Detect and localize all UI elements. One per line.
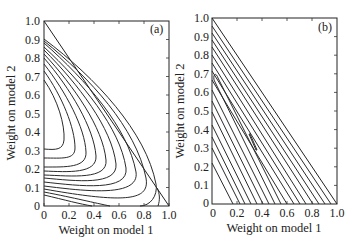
svg-text:0.6: 0.6 bbox=[25, 88, 40, 102]
svg-text:0: 0 bbox=[203, 196, 209, 210]
svg-text:1.0: 1.0 bbox=[162, 208, 177, 222]
svg-text:1.0: 1.0 bbox=[25, 14, 40, 28]
svg-text:0.1: 0.1 bbox=[25, 181, 40, 195]
panel-b-x-axis-label: Weight on model 1 bbox=[226, 221, 321, 235]
panel-a-contours bbox=[44, 39, 159, 206]
panel-a-y-tick-labels: 0 0.1 0.2 0.3 0.4 0.5 0.6 0.7 0.8 0.9 1.… bbox=[25, 14, 40, 213]
panel-a-label: (a) bbox=[150, 22, 163, 36]
svg-text:0.2: 0.2 bbox=[25, 162, 40, 176]
svg-text:0.8: 0.8 bbox=[25, 51, 40, 65]
svg-text:0.1: 0.1 bbox=[194, 178, 209, 192]
svg-text:0.5: 0.5 bbox=[25, 107, 40, 121]
svg-text:1.0: 1.0 bbox=[194, 11, 209, 25]
panel-b-x-tick-labels: 0 0.2 0.4 0.6 0.8 1.0 bbox=[210, 206, 345, 220]
svg-text:0.7: 0.7 bbox=[194, 67, 209, 81]
svg-text:0.5: 0.5 bbox=[194, 104, 209, 118]
svg-text:0.8: 0.8 bbox=[137, 208, 152, 222]
panel-a-x-tick-labels: 0 0.2 0.4 0.6 0.8 1.0 bbox=[41, 208, 177, 222]
svg-text:0.2: 0.2 bbox=[230, 206, 245, 220]
svg-text:0.4: 0.4 bbox=[255, 206, 270, 220]
svg-text:0.6: 0.6 bbox=[194, 85, 209, 99]
panel-b-contours bbox=[212, 26, 331, 204]
panel-b-y-tick-labels: 0 0.1 0.2 0.3 0.4 0.5 0.6 0.7 0.8 0.9 1.… bbox=[194, 11, 209, 210]
panel-b-label: (b) bbox=[318, 20, 332, 34]
svg-text:0.2: 0.2 bbox=[194, 160, 209, 174]
svg-text:0: 0 bbox=[210, 206, 216, 220]
svg-text:0.4: 0.4 bbox=[87, 208, 102, 222]
panel-a: 0 0.2 0.4 0.6 0.8 1.0 0 0.1 0.2 0.3 0.4 … bbox=[4, 14, 177, 237]
svg-text:0.9: 0.9 bbox=[194, 30, 209, 44]
figure: 0 0.2 0.4 0.6 0.8 1.0 0 0.1 0.2 0.3 0.4 … bbox=[0, 0, 353, 247]
svg-text:0.2: 0.2 bbox=[62, 208, 77, 222]
panel-a-x-axis-label: Weight on model 1 bbox=[58, 223, 153, 237]
svg-text:0: 0 bbox=[41, 208, 47, 222]
svg-text:0.3: 0.3 bbox=[25, 144, 40, 158]
svg-text:0.4: 0.4 bbox=[194, 123, 209, 137]
panel-a-constraint-line bbox=[44, 21, 169, 206]
panel-b-y-axis-label: Weight on model 2 bbox=[173, 63, 187, 158]
svg-text:0.9: 0.9 bbox=[25, 33, 40, 47]
svg-text:0: 0 bbox=[34, 199, 40, 213]
panel-a-y-axis-label: Weight on model 2 bbox=[4, 65, 18, 160]
svg-text:0.8: 0.8 bbox=[194, 48, 209, 62]
svg-text:0.4: 0.4 bbox=[25, 125, 40, 139]
panel-b: 0 0.2 0.4 0.6 0.8 1.0 0 0.1 0.2 0.3 0.4 … bbox=[173, 11, 345, 235]
svg-text:0.3: 0.3 bbox=[194, 141, 209, 155]
svg-text:0.6: 0.6 bbox=[280, 206, 295, 220]
svg-text:0.8: 0.8 bbox=[305, 206, 320, 220]
svg-text:0.7: 0.7 bbox=[25, 70, 40, 84]
svg-text:0.6: 0.6 bbox=[112, 208, 127, 222]
svg-text:1.0: 1.0 bbox=[330, 206, 345, 220]
